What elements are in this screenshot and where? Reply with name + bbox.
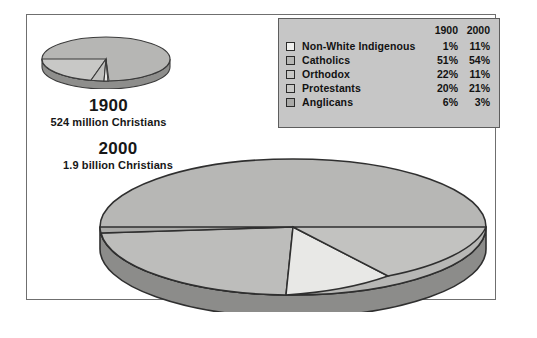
legend-value-2000: 54% [459,53,491,67]
legend-box: 1900 2000 Non-White Indigenous 1% 11% Ca… [278,18,500,128]
legend-swatch-icon [286,42,295,51]
legend-value-2000: 11% [459,39,491,53]
pie-1900-svg [41,33,171,89]
year-label-1900: 1900 [26,96,191,115]
legend-label: Protestants [301,81,427,95]
legend-value-1900: 1% [427,39,459,53]
legend-header-spacer [285,23,427,39]
legend-table: 1900 2000 Non-White Indigenous 1% 11% Ca… [285,23,491,109]
legend-swatch-icon [286,98,295,107]
legend-body: Non-White Indigenous 1% 11% Catholics 51… [285,39,491,109]
legend-label: Catholics [301,53,427,67]
legend-swatch-icon [286,56,295,65]
legend-header-row: 1900 2000 [285,23,491,39]
legend-value-1900: 51% [427,53,459,67]
legend-swatch-icon [286,70,295,79]
legend-row[interactable]: Orthodox 22% 11% [285,67,491,81]
legend-row[interactable]: Anglicans 6% 3% [285,95,491,109]
label-1900-group: 1900 524 million Christians [26,96,191,129]
legend-label: Orthodox [301,67,427,81]
legend-value-2000: 11% [459,67,491,81]
legend-value-1900: 20% [427,81,459,95]
legend-header-2000: 2000 [459,23,491,39]
legend-header-1900: 1900 [427,23,459,39]
legend-value-2000: 3% [459,95,491,109]
count-label-1900: 524 million Christians [26,115,191,129]
legend-value-1900: 22% [427,67,459,81]
legend-label: Non-White Indigenous [301,39,427,53]
legend-value-1900: 6% [427,95,459,109]
legend-swatch-cell [285,95,301,109]
year-label-2000: 2000 [38,139,198,158]
pie-chart-2000 [98,157,488,312]
legend-swatch-icon [286,84,295,93]
legend-label: Anglicans [301,95,427,109]
pie-chart-1900 [41,33,171,89]
legend-swatch-cell [285,39,301,53]
legend-row[interactable]: Protestants 20% 21% [285,81,491,95]
pie-2000-svg [98,157,488,312]
legend-row[interactable]: Non-White Indigenous 1% 11% [285,39,491,53]
legend-value-2000: 21% [459,81,491,95]
legend-swatch-cell [285,81,301,95]
legend-swatch-cell [285,67,301,81]
legend-swatch-cell [285,53,301,67]
legend-row[interactable]: Catholics 51% 54% [285,53,491,67]
